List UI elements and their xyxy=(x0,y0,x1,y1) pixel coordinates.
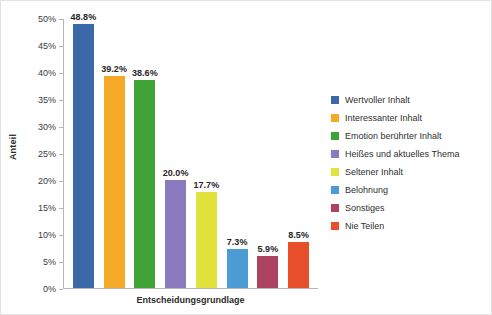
bar-group: 48.8% xyxy=(68,19,99,288)
legend-item-label: Emotion berührter Inhalt xyxy=(345,131,442,141)
bar-value-label: 20.0% xyxy=(163,168,189,178)
legend-item-label: Seltener Inhalt xyxy=(345,167,403,177)
bar xyxy=(134,80,155,288)
legend-color-swatch xyxy=(331,186,339,194)
bar-value-label: 39.2% xyxy=(101,64,127,74)
legend-item: Emotion berührter Inhalt xyxy=(331,127,489,145)
bar-value-label: 5.9% xyxy=(258,244,279,254)
y-axis-tick-label: 50% xyxy=(38,14,59,24)
legend-item: Nie Teilen xyxy=(331,217,489,235)
bar-value-label: 8.5% xyxy=(288,230,309,240)
legend-color-swatch xyxy=(331,168,339,176)
legend-item-label: Heißes und aktuelles Thema xyxy=(345,149,459,159)
bar-group: 5.9% xyxy=(253,19,284,288)
bar xyxy=(73,24,94,288)
bar xyxy=(165,180,186,288)
legend-item: Belohnung xyxy=(331,181,489,199)
bar-group: 20.0% xyxy=(160,19,191,288)
bar-value-label: 48.8% xyxy=(71,12,97,22)
legend-item: Wertvoller Inhalt xyxy=(331,91,489,109)
y-axis-tick-label: 40% xyxy=(38,68,59,78)
y-axis: 50%45%40%35%30%25%20%15%10%5%0% xyxy=(21,19,63,289)
y-axis-tick-label: 15% xyxy=(38,203,59,213)
y-axis-tick-label: 5% xyxy=(43,257,59,267)
bar-group: 38.6% xyxy=(130,19,161,288)
legend-item: Heißes und aktuelles Thema xyxy=(331,145,489,163)
bar-group: 8.5% xyxy=(283,19,314,288)
legend-color-swatch xyxy=(331,114,339,122)
bar-value-label: 17.7% xyxy=(194,180,220,190)
legend-item: Interessanter Inhalt xyxy=(331,109,489,127)
y-axis-tick-label: 25% xyxy=(38,149,59,159)
bar xyxy=(257,256,278,288)
legend-item-label: Wertvoller Inhalt xyxy=(345,95,410,105)
bar xyxy=(196,192,217,288)
legend-item-label: Nie Teilen xyxy=(345,221,384,231)
plot-area: 48.8%39.2%38.6%20.0%17.7%7.3%5.9%8.5% xyxy=(63,19,318,289)
legend-color-swatch xyxy=(331,150,339,158)
legend-color-swatch xyxy=(331,96,339,104)
y-axis-tick-label: 0% xyxy=(43,284,59,294)
x-axis-title: Entscheidungsgrundlage xyxy=(63,295,318,305)
bar xyxy=(288,242,309,288)
legend-item-label: Interessanter Inhalt xyxy=(345,113,422,123)
legend-color-swatch xyxy=(331,204,339,212)
legend-color-swatch xyxy=(331,132,339,140)
bar-group: 17.7% xyxy=(191,19,222,288)
bar-series: 48.8%39.2%38.6%20.0%17.7%7.3%5.9%8.5% xyxy=(64,19,318,288)
chart-legend: Wertvoller InhaltInteressanter InhaltEmo… xyxy=(331,91,489,235)
bar-group: 7.3% xyxy=(222,19,253,288)
bar xyxy=(227,249,248,288)
bar-value-label: 38.6% xyxy=(132,68,158,78)
legend-item: Seltener Inhalt xyxy=(331,163,489,181)
y-axis-tick-label: 10% xyxy=(38,230,59,240)
y-axis-title-label: Anteil xyxy=(8,134,18,160)
legend-item-label: Sonstiges xyxy=(345,203,385,213)
legend-item-label: Belohnung xyxy=(345,185,388,195)
bar-group: 39.2% xyxy=(99,19,130,288)
legend-item: Sonstiges xyxy=(331,199,489,217)
y-axis-tick-label: 30% xyxy=(38,122,59,132)
y-axis-tick-label: 20% xyxy=(38,176,59,186)
bar-chart-figure: Anteil 50%45%40%35%30%25%20%15%10%5%0% 4… xyxy=(0,0,492,315)
legend-color-swatch xyxy=(331,222,339,230)
y-axis-tick-label: 45% xyxy=(38,41,59,51)
bar-value-label: 7.3% xyxy=(227,237,248,247)
bar xyxy=(104,76,125,288)
y-axis-tick-label: 35% xyxy=(38,95,59,105)
y-axis-title: Anteil xyxy=(5,1,21,293)
